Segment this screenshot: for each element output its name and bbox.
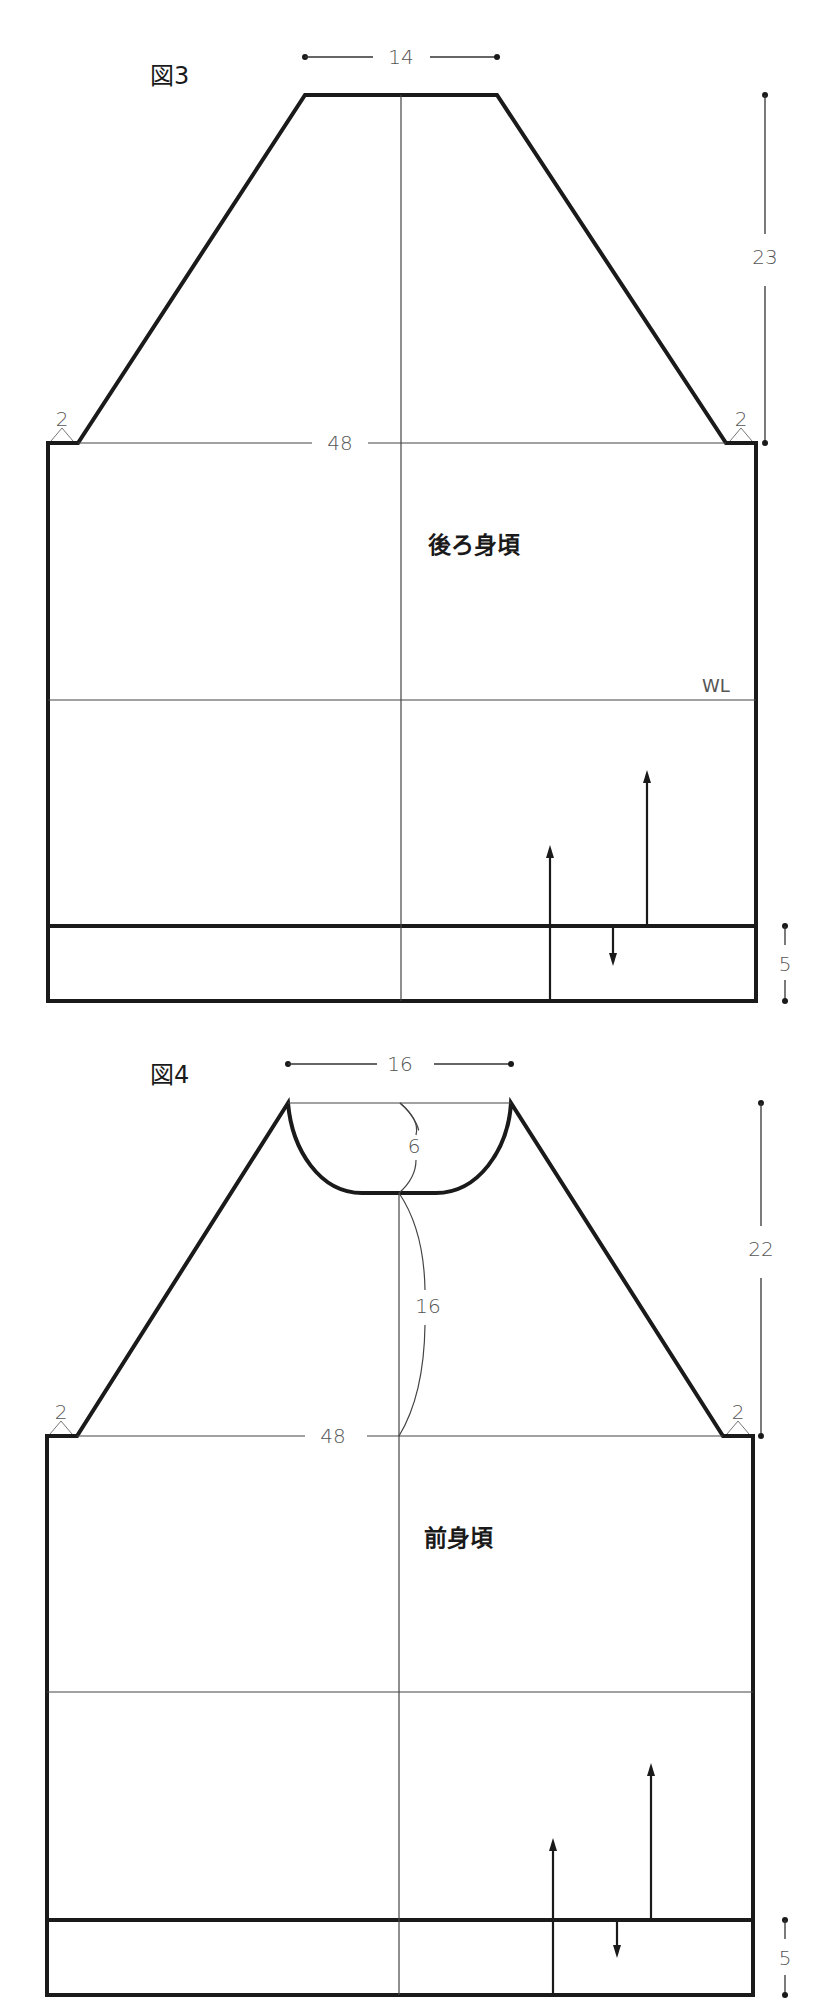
waist-line-label: WL (702, 675, 730, 696)
dimension-dot-icon (782, 998, 788, 1004)
dimension-dot-icon (782, 1992, 788, 1998)
band-height-dimension: 5 (779, 1917, 792, 1998)
arrowhead-up-icon (546, 845, 554, 858)
band-height-label: 5 (779, 1946, 792, 1970)
band-height-label: 5 (779, 952, 792, 976)
arrowhead-up-icon (647, 1763, 655, 1776)
chest-width-label: 48 (320, 1424, 345, 1448)
dimension-dot-icon (762, 440, 768, 446)
back-bodice-label: 後ろ身頃 (428, 532, 521, 558)
dimension-dot-icon (758, 1433, 764, 1439)
figure-4-title: 図4 (150, 1061, 189, 1089)
front-bodice-outline (47, 1103, 753, 1995)
raglan-height-dimension: 22 (748, 1100, 773, 1439)
arrowhead-down-icon (609, 953, 617, 966)
figure-3-back-bodice: 図3 14 48 2 2 23 (48, 45, 791, 1004)
front-bodice-label: 前身頃 (424, 1525, 494, 1551)
center-front-length-label: 16 (415, 1294, 440, 1318)
neck-width-label: 16 (387, 1052, 412, 1076)
raglan-height-label: 23 (752, 245, 777, 269)
dimension-dot-icon (508, 1061, 514, 1067)
figure-3-title: 図3 (150, 62, 189, 90)
pattern-diagram: 図3 14 48 2 2 23 (0, 0, 822, 2012)
direction-arrows (546, 770, 651, 1001)
band-height-dimension: 5 (779, 923, 792, 1004)
arrowhead-up-icon (549, 1838, 557, 1851)
chest-width-label: 48 (327, 431, 352, 455)
neck-width-dimension: 14 (302, 45, 500, 69)
dimension-dot-icon (494, 54, 500, 60)
center-front-arc (399, 1193, 425, 1290)
neck-width-dimension: 16 (285, 1052, 514, 1076)
figure-4-front-bodice: 図4 16 6 16 48 2 2 (47, 1052, 791, 1998)
neck-width-label: 14 (388, 45, 413, 69)
arrowhead-down-icon (613, 1945, 621, 1958)
arrowhead-up-icon (643, 770, 651, 783)
direction-arrows (549, 1763, 655, 1995)
back-bodice-outline (48, 95, 756, 1001)
neck-depth-label: 6 (408, 1134, 421, 1158)
raglan-height-label: 22 (748, 1237, 773, 1261)
raglan-height-dimension: 23 (752, 92, 777, 446)
